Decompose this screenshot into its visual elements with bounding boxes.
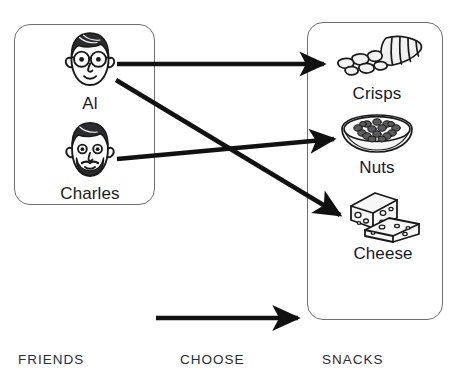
caption-friends: FRIENDS (18, 352, 84, 367)
mapping-diagram: Al (0, 0, 456, 388)
bowl-of-nuts-icon (338, 112, 416, 158)
arrow-charles-to-nuts (117, 139, 334, 159)
node-charles-label: Charles (34, 184, 146, 204)
face-with-glasses-icon (59, 28, 121, 94)
node-nuts: Nuts (336, 112, 418, 178)
node-al-label: Al (44, 94, 136, 114)
face-with-beard-icon (59, 118, 121, 184)
caption-choose: CHOOSE (180, 352, 245, 367)
cheese-wedges-icon (337, 188, 429, 244)
crisps-bag-icon (329, 32, 425, 84)
node-crisps-label: Crisps (327, 84, 427, 104)
node-cheese: Cheese (333, 188, 433, 264)
node-crisps: Crisps (327, 32, 427, 104)
node-cheese-label: Cheese (333, 244, 433, 264)
node-nuts-label: Nuts (336, 158, 418, 178)
node-al: Al (44, 28, 136, 114)
caption-snacks: SNACKS (322, 352, 384, 367)
node-charles: Charles (34, 118, 146, 204)
